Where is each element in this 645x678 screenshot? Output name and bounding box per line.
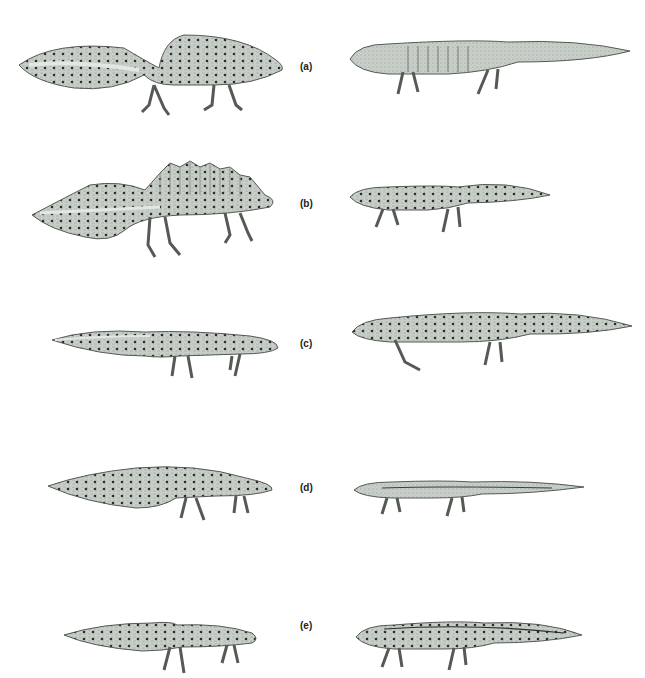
row-e: (e) [0,560,645,678]
male-newt-d-illustration [46,458,276,528]
row-label: (b) [300,198,313,209]
female-newt-a-illustration [348,34,633,104]
female-newt-e-illustration [354,615,584,678]
female-newt-c-illustration [350,300,635,380]
male-newt-a-illustration [14,30,294,120]
row-label: (c) [300,338,312,349]
male-newt-b-illustration [30,155,280,265]
male-newt-c-illustration [50,318,282,388]
row-label: (a) [300,61,312,72]
female-newt-b-illustration [348,177,553,237]
row-b: (b) [0,140,645,280]
row-d: (d) [0,420,645,560]
row-label: (d) [300,482,313,493]
female-newt-d-illustration [352,472,587,527]
row-c: (c) [0,280,645,420]
row-label: (e) [300,620,312,631]
row-a: (a) [0,0,645,140]
male-newt-e-illustration [62,615,262,678]
